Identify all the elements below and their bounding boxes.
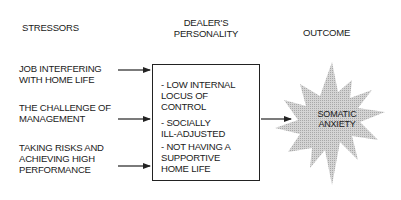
header-personality: DEALER'S PERSONALITY	[165, 17, 247, 39]
trait-no-supportive-home: - NOT HAVING A SUPPORTIVE HOME LIFE	[161, 141, 231, 174]
stressor-taking-risks: TAKING RISKS AND ACHIEVING HIGH PERFORMA…	[19, 142, 104, 175]
header-stressors: STRESSORS	[22, 22, 79, 33]
stressor-job-interfering: JOB INTERFERING WITH HOME LIFE	[19, 63, 102, 85]
trait-low-internal-locus: - LOW INTERNAL LOCUS OF CONTROL	[161, 79, 235, 112]
stressor-challenge-management: THE CHALLENGE OF MANAGEMENT	[19, 102, 111, 124]
outcome-label: SOMATIC ANXIETY	[307, 109, 367, 129]
header-outcome: OUTCOME	[303, 27, 350, 38]
trait-socially-ill-adjusted: - SOCIALLY ILL-ADJUSTED	[161, 117, 225, 139]
